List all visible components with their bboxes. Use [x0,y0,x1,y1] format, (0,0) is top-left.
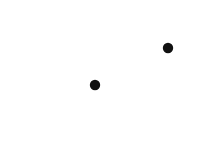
source-charge-dot [90,80,100,90]
electric-field-diagram [0,0,209,166]
field-diagram-canvas [0,0,209,166]
test-charge-dot [163,43,173,53]
